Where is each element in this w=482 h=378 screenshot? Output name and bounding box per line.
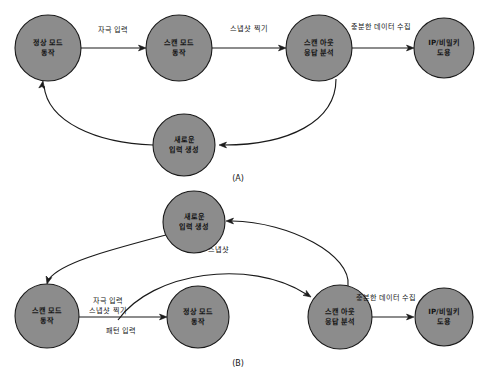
ip-key-theft-node-label-line-1: 도용: [437, 317, 451, 326]
ip-key-theft-node-label-line-0: IP/비밀키: [428, 307, 459, 316]
normal-mode-node-label-line-1: 동작: [191, 317, 205, 326]
edge-scan-to-scanout-label: 스냅샷 찍기: [230, 24, 267, 33]
scan-mode-node-label-line-0: 스캔 모드: [164, 38, 194, 47]
edge-scanout-to-newinput-line: [224, 79, 336, 145]
state-diagram-figure: 자극 입력스냅샷 찍기충분한 데이터 수집정상 모드동작스캔 모드동작스캔 아웃…: [0, 0, 482, 378]
edge-newinput-to-normal-line: [44, 86, 153, 145]
ip-key-theft-node-label-line-0: IP/비밀키: [428, 38, 459, 47]
normal-mode-node-label-line-0: 정상 모드: [183, 307, 213, 316]
panel-caption-b: (B): [232, 359, 244, 368]
edge-scanmode-to-normal-label: 자극 입력: [93, 296, 123, 305]
scan-mode-node-label-line-0: 스캔 모드: [32, 306, 62, 315]
edge-scan-to-scanout: 스냅샷 찍기: [212, 24, 286, 51]
edge-scanmode-to-scanout-curve-arrowhead: [303, 290, 312, 299]
edge-label-pattern-input: 패턴 입력: [106, 326, 136, 335]
ip-key-theft-node[interactable]: IP/비밀키도용: [414, 18, 474, 78]
edge-normal-to-scan: 자극 입력: [81, 25, 146, 51]
scan-out-analysis-node-label-line-0: 스캔 아웃: [304, 38, 334, 47]
scan-out-analysis-node-label-line-1: 응답 분석: [325, 317, 355, 326]
edge-label-snapshot-take: 스냅샷 찍기: [89, 306, 126, 315]
normal-mode-node[interactable]: 정상 모드동작: [15, 15, 81, 81]
normal-mode-node-label-line-1: 동작: [41, 48, 55, 57]
edge-scanout-to-newinput: [226, 218, 348, 286]
edge-newinput-to-normal: [39, 80, 153, 145]
scan-mode-node-label-line-1: 동작: [172, 48, 186, 57]
panel-caption-a: (A): [232, 174, 244, 183]
edge-scanout-to-theft-label: 충분한 데이터 수집: [351, 22, 412, 31]
edge-scanout-to-newinput: [219, 79, 336, 148]
new-input-generation-node-label-line-0: 새로운: [174, 135, 195, 144]
new-input-generation-node-label-line-1: 입력 생성: [169, 145, 199, 154]
scan-out-analysis-node[interactable]: 스캔 아웃응답 분석: [286, 15, 352, 81]
edge-newinput-to-normal-arrowhead: [39, 80, 46, 88]
scan-mode-node-label-line-1: 동작: [40, 316, 54, 325]
ip-key-theft-node-label-line-1: 도용: [437, 48, 451, 57]
new-input-generation-node[interactable]: 새로운입력 생성: [153, 114, 215, 176]
new-input-generation-node[interactable]: 새로운입력 생성: [163, 191, 225, 253]
diagram-panel-a: 자극 입력스냅샷 찍기충분한 데이터 수집정상 모드동작스캔 모드동작스캔 아웃…: [15, 15, 474, 183]
edge-label-sufficient-data: 충분한 데이터 수집: [356, 293, 417, 302]
edge-scanout-to-theft: 충분한 데이터 수집: [351, 22, 414, 51]
edge-scanout-to-newinput-line: [232, 221, 348, 286]
new-input-generation-node-label-line-0: 새로운: [184, 212, 205, 221]
scan-out-analysis-node-label-line-0: 스캔 아웃: [325, 307, 355, 316]
edge-normal-to-scan-label: 자극 입력: [98, 25, 128, 34]
edge-newinput-to-scanmode-line: [49, 235, 166, 279]
diagram-panel-b: 자극 입력스냅샷새로운입력 생성스캔 모드동작정상 모드동작스캔 아웃응답 분석…: [15, 191, 473, 368]
edge-scanout-to-theft: [372, 314, 414, 320]
normal-mode-node-label-line-0: 정상 모드: [33, 38, 63, 47]
edge-newinput-to-scanmode: [44, 235, 166, 285]
scan-mode-node[interactable]: 스캔 모드동작: [15, 284, 79, 348]
scan-out-analysis-node-label-line-1: 응답 분석: [304, 48, 334, 57]
new-input-generation-node-label-line-1: 입력 생성: [179, 222, 209, 231]
figure-root: 자극 입력스냅샷 찍기충분한 데이터 수집정상 모드동작스캔 모드동작스캔 아웃…: [0, 0, 482, 378]
normal-mode-node[interactable]: 정상 모드동작: [167, 286, 229, 348]
scan-mode-node[interactable]: 스캔 모드동작: [146, 15, 212, 81]
ip-key-theft-node[interactable]: IP/비밀키도용: [415, 288, 473, 346]
